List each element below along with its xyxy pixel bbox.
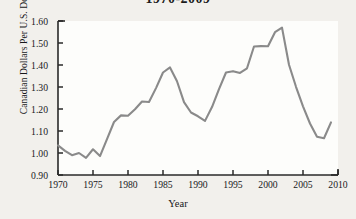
plot-area — [0, 0, 356, 219]
exchange-rate-chart: 1970-2009 Canadian Dollars Per U.S. Doll… — [0, 0, 356, 219]
x-axis-title: Year — [0, 198, 356, 209]
